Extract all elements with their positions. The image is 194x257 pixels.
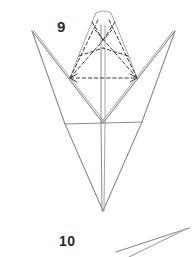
step-9-figure: [32, 11, 175, 211]
cone-right-mid-dashed: [103, 48, 128, 56]
left-wing-outer-edge: [32, 31, 103, 123]
cone-left-mid-dashed: [79, 48, 103, 56]
cone-dashed-lines: [70, 20, 137, 78]
step-10-tip-cap: [186, 228, 190, 229]
left-wing-lower-edge: [32, 31, 65, 124]
step-10-lower-edge: [129, 229, 186, 257]
step-label-9: 9: [57, 19, 65, 34]
step-label-10: 10: [59, 234, 76, 248]
cone-right-dashed-edge: [109, 20, 137, 78]
lower-right-panel-edge: [103, 122, 142, 211]
right-wing-lower-edge: [142, 31, 175, 122]
lower-left-panel-edge: [65, 124, 103, 211]
cone-left-dashed-edge: [70, 20, 98, 78]
origami-diagram-canvas: [0, 0, 194, 257]
cone-left-diagonal-dashed: [70, 30, 112, 78]
step-10-upper-edge: [116, 229, 186, 252]
cone-apex-cap: [96, 11, 111, 13]
right-wing-outer-edge: [103, 31, 175, 123]
step-10-figure: [116, 228, 190, 257]
